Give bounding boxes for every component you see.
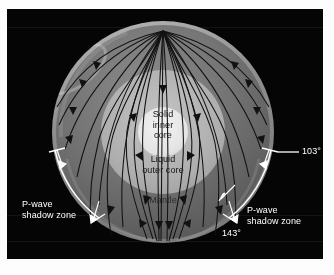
angle-103-label: 103° [302, 146, 321, 157]
p-wave-shadow-zone-label-right: P-wave shadow zone [247, 205, 301, 226]
inner-core-line-2: inner [138, 120, 188, 131]
shadow-zone-left-line-1: P-wave [22, 199, 76, 210]
shadow-zone-right-line-2: shadow zone [247, 216, 301, 227]
shadow-zone-right-line-1: P-wave [247, 205, 301, 216]
inner-core-line-3: core [138, 130, 188, 141]
mantle-label: Mantle [135, 195, 191, 206]
outer-core-line-2: outer core [124, 165, 202, 176]
liquid-outer-core-label: Liquid outer core [124, 154, 202, 175]
p-wave-shadow-zone-label-left: P-wave shadow zone [22, 199, 76, 220]
outer-core-line-1: Liquid [124, 154, 202, 165]
solid-inner-core-label: Solid inner core [138, 109, 188, 141]
figure-frame: Solid inner core Liquid outer core Mantl… [0, 0, 334, 275]
shadow-zone-left-line-2: shadow zone [22, 210, 76, 221]
angle-143-label: 143° [222, 228, 241, 239]
inner-core-line-1: Solid [138, 109, 188, 120]
diagram-panel: Solid inner core Liquid outer core Mantl… [7, 9, 323, 259]
